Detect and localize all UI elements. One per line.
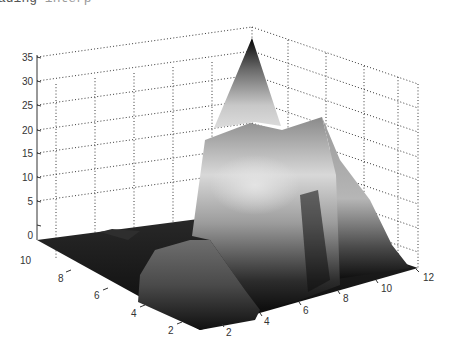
svg-text:10: 10: [22, 172, 34, 183]
svg-text:5: 5: [27, 196, 33, 207]
svg-text:8: 8: [343, 293, 349, 304]
surface-highlight: [210, 155, 300, 215]
svg-text:6: 6: [94, 290, 100, 301]
svg-text:6: 6: [303, 305, 309, 316]
svg-text:8: 8: [58, 273, 64, 284]
svg-text:10: 10: [381, 283, 393, 294]
surface-peak: [214, 38, 281, 128]
svg-text:2: 2: [226, 327, 232, 338]
z-axis-labels: 35 30 25 20 15 10 5 0: [22, 52, 34, 241]
svg-text:15: 15: [22, 148, 34, 159]
svg-text:12: 12: [423, 272, 435, 283]
svg-text:0: 0: [27, 230, 33, 241]
svg-text:4: 4: [264, 316, 270, 327]
svg-text:35: 35: [22, 52, 34, 63]
svg-text:4: 4: [131, 308, 137, 319]
svg-text:10: 10: [20, 255, 32, 266]
svg-text:30: 30: [22, 76, 34, 87]
svg-text:2: 2: [168, 325, 174, 336]
svg-text:25: 25: [22, 100, 34, 111]
svg-text:20: 20: [22, 125, 34, 136]
surface-plot: 35 30 25 20 15 10 5 0 10 8 6 4 2 2 4 6 8…: [0, 0, 449, 348]
